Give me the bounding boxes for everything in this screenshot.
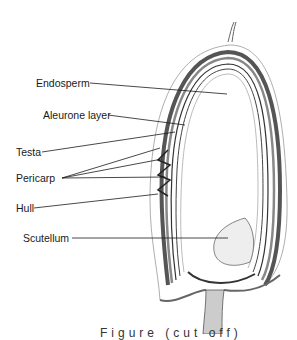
label-aleurone-layer: Aleurone layer (43, 109, 111, 121)
label-scutellum: Scutellum (23, 232, 69, 244)
figure-caption: Figure (cut off) (100, 326, 242, 340)
inner-fold (188, 272, 255, 283)
awn (228, 22, 236, 42)
label-testa: Testa (16, 146, 41, 158)
label-endosperm: Endosperm (36, 77, 90, 89)
label-pericarp: Pericarp (16, 172, 55, 184)
scutellum-shape (214, 218, 254, 265)
label-hull: Hull (16, 202, 34, 214)
leader-lines (34, 83, 228, 238)
